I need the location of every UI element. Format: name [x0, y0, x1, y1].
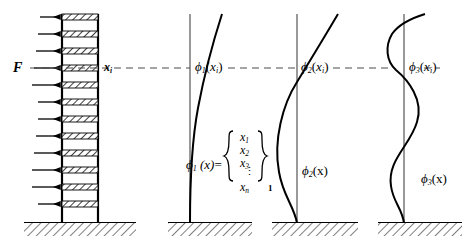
mode-1-base-arg: (x) [200, 157, 214, 172]
mode-1-top-close: ) [218, 59, 222, 74]
mode-3-curve [387, 14, 425, 223]
mode-3-top-close: ) [432, 59, 436, 74]
mode-shape-figure: F xi ϕ1(xi) ϕ1 (x)= x1 x2 x3 ⋮ xn 1 ϕ2(x… [0, 0, 463, 251]
vector-entry-n: xn [240, 181, 249, 195]
mode-1-ground [168, 223, 252, 236]
lateral-force-arrows [32, 17, 60, 204]
mode-3-panel [378, 14, 462, 236]
mode-1-symbol: ϕ [195, 59, 202, 74]
mode-1-equals: = [214, 157, 221, 172]
mode-3-base-arg: (x) [432, 171, 447, 186]
floor-slabs [62, 14, 98, 207]
mode-1-base-symbol: ϕ [186, 157, 193, 172]
mode-1-base-label: ϕ1 (x)= [186, 158, 222, 173]
mode-1-panel [168, 14, 252, 236]
vector-ellipsis: ⋮ [244, 166, 255, 177]
mode-2-top-close: ) [324, 59, 328, 74]
mode-1-curve [190, 14, 222, 223]
building-panel [24, 14, 136, 236]
mode-2-symbol: ϕ [301, 59, 308, 74]
building-ground [24, 223, 136, 236]
mode-2-curve [277, 14, 338, 223]
mode-1-base-number: 1 [193, 164, 197, 173]
mode-2-base-label: ϕ2(x) [302, 164, 328, 179]
mode-2-panel [272, 14, 358, 236]
vector-entry-n-sub: n [245, 186, 249, 195]
mode-3-top-label: ϕ3(xi) [409, 60, 436, 75]
diagram-canvas [0, 0, 463, 251]
station-label: xi [104, 61, 112, 75]
station-label-sub: i [110, 66, 112, 75]
mode-2-base-symbol: ϕ [302, 163, 309, 178]
mode-2-ground [272, 223, 358, 236]
mode-3-ground [378, 223, 462, 236]
mode-1-top-label: ϕ1(xi) [195, 60, 222, 75]
mode-3-base-label: ϕ3(x) [421, 172, 447, 187]
force-label: F [13, 61, 22, 75]
mode-2-top-label: ϕ2(xi) [301, 60, 328, 75]
mode-3-base-symbol: ϕ [421, 171, 428, 186]
mode-3-symbol: ϕ [409, 59, 416, 74]
mode-2-base-arg: (x) [313, 163, 328, 178]
vector-outer-subscript: 1 [268, 184, 273, 193]
